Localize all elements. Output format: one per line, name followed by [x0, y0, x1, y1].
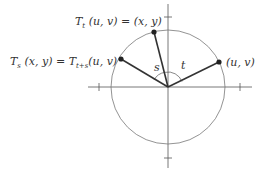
angle-label-t: t [181, 59, 186, 72]
rotation-diagram: (u, v) Tt (u, v) = (x, y) Ts (x, y) = Tt… [0, 0, 266, 178]
label-s-mid: (x, y) = T [21, 55, 78, 68]
point-s [118, 56, 123, 61]
angle-label-s: s [154, 61, 160, 74]
label-t: Tt (u, v) = (x, y) [75, 15, 162, 30]
segment-s [121, 59, 168, 87]
label-s: Ts (x, y) = Tt+s(u, v) [10, 55, 117, 70]
segment-uv [168, 62, 219, 87]
point-uv [216, 59, 221, 64]
label-uv: (u, v) [226, 56, 255, 69]
label-t-rest: (u, v) = (x, y) [85, 15, 162, 28]
angle-arc-t [165, 72, 182, 82]
label-s-sub2: t+s [76, 62, 89, 70]
segment-t [154, 32, 168, 87]
label-s-rest: (u, v) [88, 55, 117, 68]
point-t [151, 29, 156, 34]
